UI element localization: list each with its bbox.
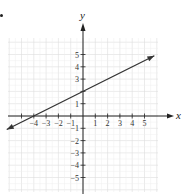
y-tick-label: 4 <box>75 63 79 72</box>
y-axis-label: y <box>79 9 85 21</box>
x-tick-label: 5 <box>143 119 147 128</box>
x-axis-label: x <box>175 109 181 121</box>
y-tick-label: 1 <box>75 100 79 109</box>
x-axis-arrow-icon <box>167 114 174 119</box>
y-tick-label: 3 <box>75 75 79 84</box>
coordinate-plane: −4−3−2−1123455431−1−2−3−4−5 x y <box>0 0 186 196</box>
y-axis-arrow-icon <box>81 23 86 31</box>
y-tick-label: −2 <box>70 137 79 146</box>
axes <box>8 23 174 194</box>
line-start-arrow-icon <box>7 124 14 129</box>
x-tick-label: 2 <box>106 119 110 128</box>
x-tick-label: 3 <box>118 119 122 128</box>
x-tick-label: −4 <box>30 119 39 128</box>
y-tick-label: −1 <box>70 124 79 133</box>
y-tick-label: −5 <box>70 174 79 183</box>
y-tick-label: 5 <box>75 51 79 60</box>
x-tick-label: 1 <box>93 119 97 128</box>
x-tick-label: −2 <box>54 119 63 128</box>
y-tick-label: −4 <box>70 161 79 170</box>
x-tick-label: −3 <box>42 119 51 128</box>
y-tick-label: −3 <box>70 149 79 158</box>
x-tick-label: 4 <box>130 119 134 128</box>
